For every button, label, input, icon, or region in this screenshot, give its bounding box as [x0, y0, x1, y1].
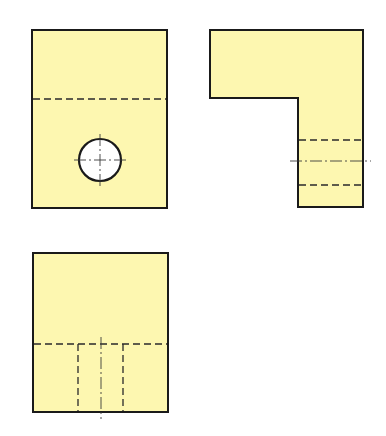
front-view	[32, 30, 167, 208]
orthographic-drawing	[0, 0, 386, 436]
side-view-outline	[210, 30, 363, 207]
side-view	[210, 30, 371, 207]
top-view	[33, 253, 168, 419]
top-view-outline	[33, 253, 168, 412]
